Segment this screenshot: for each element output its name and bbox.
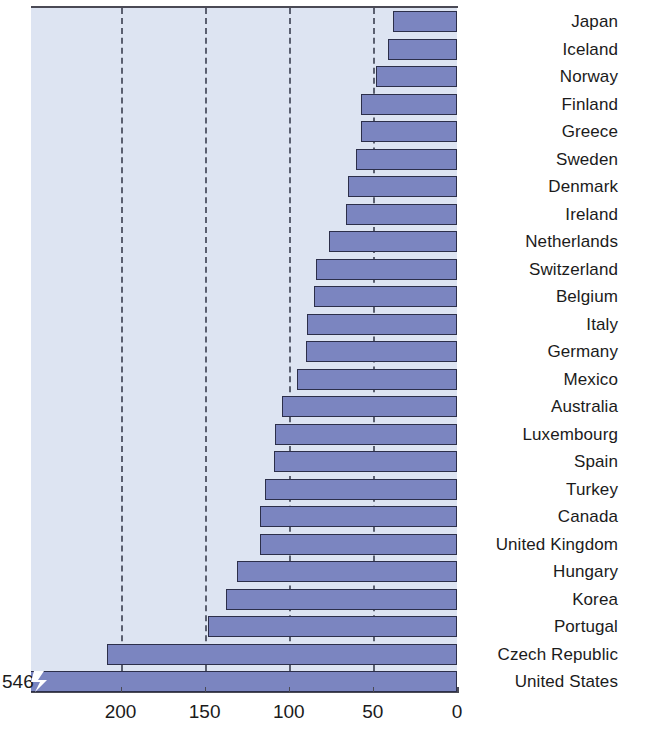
bar-canada [260, 506, 457, 527]
category-label-portugal: Portugal [554, 613, 618, 641]
x-tick-0 [457, 687, 459, 693]
bar-greece [361, 121, 457, 142]
bar-denmark [348, 176, 457, 197]
x-tick-100 [289, 687, 291, 693]
category-label-greece: Greece [562, 118, 618, 146]
bar-sweden [356, 149, 457, 170]
x-tick-50 [373, 687, 375, 693]
category-label-korea: Korea [572, 586, 618, 614]
bar-czech-republic [107, 644, 457, 665]
category-label-mexico: Mexico [564, 366, 618, 394]
bar-spain [274, 451, 457, 472]
bar-netherlands [329, 231, 457, 252]
category-label-sweden: Sweden [556, 146, 618, 174]
bar-turkey [265, 479, 457, 500]
bar-iceland [388, 39, 457, 60]
x-tick-200 [121, 687, 123, 693]
bar-ireland [346, 204, 457, 225]
category-label-turkey: Turkey [566, 476, 618, 504]
bar-korea [226, 589, 457, 610]
category-label-switzerland: Switzerland [529, 256, 618, 284]
category-label-luxembourg: Luxembourg [522, 421, 618, 449]
category-label-iceland: Iceland [562, 36, 618, 64]
bar-italy [307, 314, 457, 335]
category-label-spain: Spain [574, 448, 618, 476]
bar-hungary [237, 561, 457, 582]
bar-united-kingdom [260, 534, 457, 555]
category-axis-labels: JapanIcelandNorwayFinlandGreeceSwedenDen… [462, 8, 622, 691]
x-axis: 200150100500 [0, 693, 648, 733]
category-label-japan: Japan [571, 8, 618, 36]
category-label-united-states: United States [515, 668, 618, 696]
category-label-hungary: Hungary [553, 558, 618, 586]
category-label-united-kingdom: United Kingdom [496, 531, 618, 559]
outlier-value-label: 546 [2, 671, 34, 692]
category-label-finland: Finland [562, 91, 618, 119]
bar-switzerland [316, 259, 457, 280]
bar-germany [306, 341, 457, 362]
category-label-italy: Italy [586, 311, 618, 339]
category-label-germany: Germany [547, 338, 618, 366]
bar-australia [282, 396, 457, 417]
bar-japan [393, 11, 457, 32]
bar-norway [376, 66, 457, 87]
category-label-belgium: Belgium [556, 283, 618, 311]
bar-chart-figure: 546 JapanIcelandNorwayFinlandGreeceSwede… [0, 0, 648, 734]
bar-mexico [297, 369, 457, 390]
category-label-norway: Norway [560, 63, 618, 91]
bar-finland [361, 94, 457, 115]
category-label-netherlands: Netherlands [525, 228, 618, 256]
x-tick-label-200: 200 [105, 701, 137, 723]
category-label-canada: Canada [558, 503, 618, 531]
bar-luxembourg [275, 424, 457, 445]
category-label-czech-republic: Czech Republic [498, 641, 618, 669]
x-tick-label-150: 150 [189, 701, 221, 723]
bar-united-states [31, 671, 457, 692]
bar-portugal [208, 616, 457, 637]
x-tick-label-100: 100 [273, 701, 305, 723]
x-tick-label-50: 50 [362, 701, 383, 723]
category-label-ireland: Ireland [565, 201, 618, 229]
x-tick-150 [205, 687, 207, 693]
category-label-denmark: Denmark [548, 173, 618, 201]
x-tick-label-0: 0 [452, 701, 463, 723]
bar-belgium [314, 286, 457, 307]
category-label-australia: Australia [551, 393, 618, 421]
